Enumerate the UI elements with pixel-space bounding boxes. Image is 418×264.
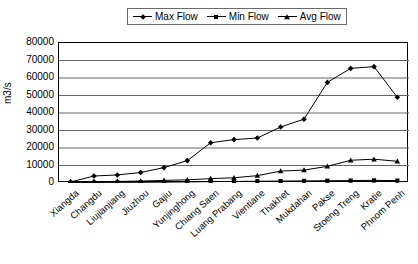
y-axis-tick-label: 80000 [2, 37, 54, 47]
data-point [301, 116, 307, 122]
legend-label-min-flow: Min Flow [229, 12, 269, 22]
y-axis-tick-label: 20000 [2, 142, 54, 152]
data-point [255, 135, 261, 141]
chart-legend: Max Flow Min Flow Avg Flow [127, 8, 347, 25]
x-axis-tick-labels: XiangdaChangduLiujianjiangJiuzhouGajiuYu… [58, 182, 408, 264]
flow-line-chart: Max Flow Min Flow Avg Flow m3/s 80000700… [0, 0, 418, 264]
y-axis-tick-label: 60000 [2, 72, 54, 82]
avg-flow-triangle-icon [278, 12, 297, 21]
legend-entry-avg-flow: Avg Flow [278, 12, 341, 22]
legend-entry-min-flow: Min Flow [207, 12, 269, 22]
y-axis-tick-label: 0 [2, 177, 54, 187]
legend-entry-max-flow: Max Flow [133, 12, 198, 22]
data-point [325, 80, 331, 86]
min-flow-square-icon [207, 12, 226, 21]
plot-svg [59, 43, 409, 183]
data-point [231, 137, 237, 143]
data-point [348, 66, 354, 72]
data-point [278, 124, 284, 130]
series-line [71, 67, 398, 182]
y-axis-tick-label: 40000 [2, 107, 54, 117]
y-axis-tick-label: 70000 [2, 55, 54, 65]
y-axis-tick-label: 50000 [2, 90, 54, 100]
legend-label-max-flow: Max Flow [155, 12, 198, 22]
y-axis-tick-labels: 8000070000600005000040000300002000010000… [0, 42, 54, 182]
max-flow-diamond-icon [133, 12, 152, 21]
y-axis-tick-label: 30000 [2, 125, 54, 135]
y-axis-tick-label: 10000 [2, 160, 54, 170]
legend-label-avg-flow: Avg Flow [300, 12, 341, 22]
